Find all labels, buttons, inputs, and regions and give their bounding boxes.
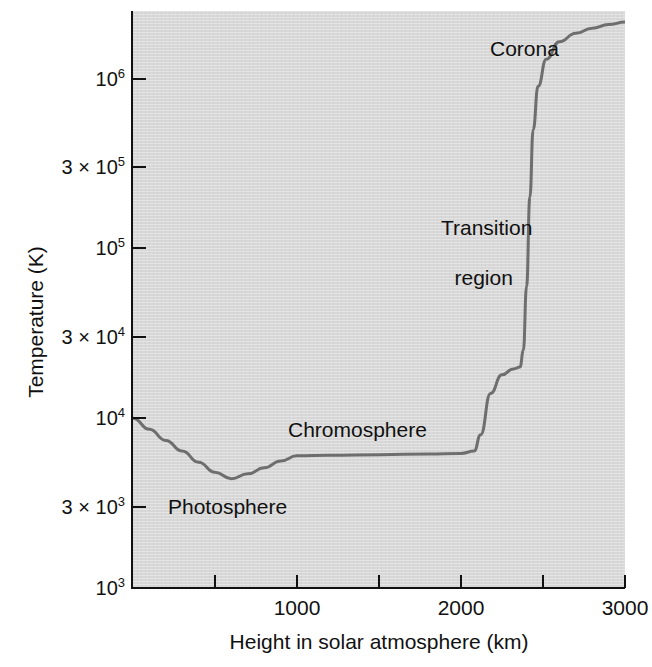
y-tick-label-2: 104 [5,408,125,428]
transition-line-1: Transition [441,216,532,239]
annotation-photosphere: Photosphere [168,494,287,519]
x-tick-label-6: 3000 [602,596,649,620]
y-tick-label-0: 103 [5,578,125,598]
annotation-transition-region: Transition region [418,190,526,315]
x-tick-6 [624,575,626,588]
temperature-curve-path [133,22,625,479]
y-tick-label-6: 106 [5,69,125,89]
x-tick-3 [378,575,380,588]
y-tick-label-5: 3 × 105 [5,157,125,177]
transition-line-2: region [454,266,512,289]
x-tick-1 [214,575,216,588]
y-tick-6 [133,78,146,80]
y-axis-line [131,11,133,589]
y-tick-5 [133,166,146,168]
x-tick-5 [542,575,544,588]
y-tick-3 [133,336,146,338]
y-tick-0 [133,587,146,589]
y-tick-label-3: 3 × 104 [5,327,125,347]
y-tick-label-1: 3 × 103 [5,497,125,517]
x-tick-label-2: 1000 [274,596,321,620]
x-tick-2 [296,575,298,588]
annotation-chromosphere: Chromosphere [288,417,427,442]
y-axis-label: Temperature (K) [24,202,48,442]
y-tick-label-4: 105 [5,238,125,258]
x-tick-label-4: 2000 [438,596,485,620]
y-tick-4 [133,247,146,249]
temperature-profile-figure: 1033 × 1031043 × 1041053 × 105106 100020… [0,0,652,667]
y-tick-1 [133,506,146,508]
y-tick-2 [133,417,146,419]
x-axis-label: Height in solar atmosphere (km) [133,630,625,654]
annotation-corona: Corona [490,36,559,61]
x-tick-4 [460,575,462,588]
